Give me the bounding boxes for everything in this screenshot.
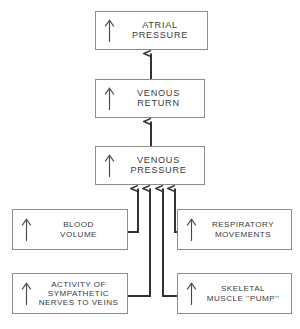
up-arrow-icon — [20, 218, 33, 242]
node-label: BLOOD VOLUME — [35, 220, 127, 238]
node-label: VENOUS RETURN — [118, 89, 204, 108]
up-arrow-icon — [185, 218, 198, 242]
node-venous-return: VENOUS RETURN — [95, 79, 205, 118]
up-arrow-icon — [103, 87, 116, 111]
node-sympathetic-nerve-activity: ACTIVITY OF SYMPATHETIC NERVES TO VEINS — [12, 273, 128, 314]
node-skeletal-muscle-pump: SKELETAL MUSCLE ''PUMP'' — [177, 273, 292, 314]
up-arrow-icon — [103, 154, 116, 178]
up-arrow-icon — [185, 282, 198, 306]
node-label: ATRIAL PRESSURE — [118, 21, 207, 40]
node-label: ACTIVITY OF SYMPATHETIC NERVES TO VEINS — [35, 280, 127, 308]
node-blood-volume: BLOOD VOLUME — [12, 209, 128, 250]
figure-canvas: ATRIAL PRESSURE VENOUS RETURN VENOUS PRE… — [0, 0, 300, 329]
caption-strip — [0, 321, 300, 329]
node-venous-pressure: VENOUS PRESSURE — [95, 146, 205, 185]
up-arrow-icon — [20, 282, 33, 306]
node-label: SKELETAL MUSCLE ''PUMP'' — [200, 284, 291, 302]
up-arrow-icon — [103, 19, 116, 43]
node-label: VENOUS PRESSURE — [118, 156, 204, 175]
node-respiratory-movements: RESPIRATORY MOVEMENTS — [177, 209, 292, 250]
node-atrial-pressure: ATRIAL PRESSURE — [95, 11, 208, 50]
edge-blood-volume-to-venous-pressure — [128, 189, 138, 233]
node-label: RESPIRATORY MOVEMENTS — [200, 220, 291, 238]
